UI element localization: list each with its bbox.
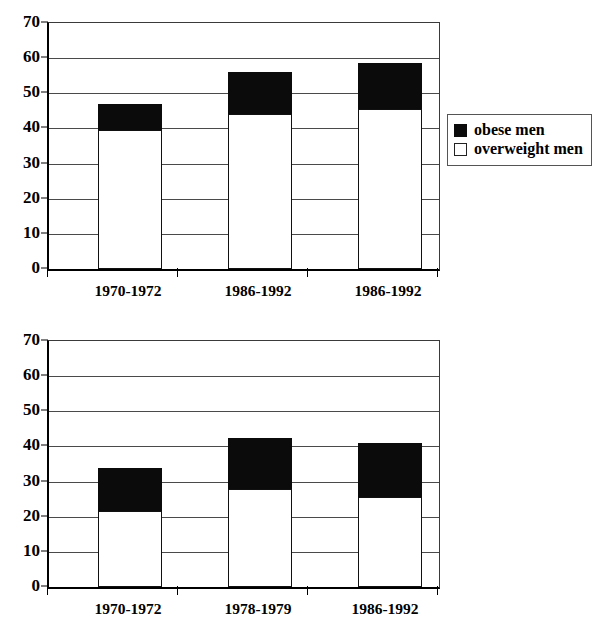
y-tick-label: 30 — [23, 471, 40, 491]
legend-item-obese-men: obese men — [454, 121, 583, 139]
x-tick-mark — [177, 586, 178, 595]
x-tick-mark — [307, 268, 308, 277]
y-tick-label: 50 — [23, 82, 40, 102]
plot-area-men — [47, 22, 440, 271]
y-tick-label: 50 — [23, 400, 40, 420]
bar-segment-obese — [358, 63, 422, 109]
legend-men: obese men overweight men — [447, 114, 592, 166]
x-tick-mark — [437, 586, 438, 595]
y-tick-label: 20 — [23, 188, 40, 208]
legend-swatch-obese-icon — [454, 124, 467, 137]
bar-segment-obese — [228, 438, 292, 489]
legend-swatch-overweight-icon — [454, 143, 467, 156]
x-tick-mark — [307, 586, 308, 595]
y-tick-label: 60 — [23, 47, 40, 67]
bar-segment-overweight — [98, 130, 162, 269]
bar-segment-obese — [98, 468, 162, 512]
bar-segment-overweight — [228, 114, 292, 269]
bar-segment-overweight — [228, 489, 292, 587]
x-axis-labels-men: 1970-1972 1986-1992 1986-1992 — [47, 282, 437, 306]
bar-segment-overweight — [358, 497, 422, 587]
y-tick-label: 30 — [23, 153, 40, 173]
y-tick-label: 0 — [32, 576, 41, 596]
gridline — [49, 411, 439, 412]
y-tick-label: 60 — [23, 365, 40, 385]
x-tick-label: 1970-1972 — [94, 600, 161, 618]
x-tick-mark — [437, 268, 438, 277]
y-axis-labels-women: 70 60 50 40 30 20 10 0 — [0, 340, 40, 586]
y-tick-label: 20 — [23, 506, 40, 526]
y-tick-label: 10 — [23, 223, 40, 243]
x-tick-mark — [47, 586, 48, 595]
legend-label-obese: obese men — [474, 121, 545, 139]
y-axis-labels-men: 70 60 50 40 30 20 10 0 — [0, 22, 40, 268]
y-tick-label: 10 — [23, 541, 40, 561]
y-tick-label: 40 — [23, 435, 40, 455]
y-tick-label: 40 — [23, 117, 40, 137]
legend-item-overweight-men: overweight men — [454, 140, 583, 158]
gridline — [49, 376, 439, 377]
x-tick-label: 1978-1979 — [224, 600, 291, 618]
bar-segment-obese — [98, 104, 162, 130]
y-tick-label: 0 — [32, 258, 41, 278]
plot-area-women — [47, 340, 440, 589]
legend-label-overweight: overweight men — [474, 140, 583, 158]
x-tick-label: 1970-1972 — [94, 282, 161, 300]
y-tick-label: 70 — [23, 330, 40, 350]
chart-women: 70 60 50 40 30 20 10 0 — [0, 318, 602, 636]
x-tick-mark — [47, 268, 48, 277]
x-tick-label: 1986-1992 — [354, 282, 421, 300]
y-tick-label: 70 — [23, 12, 40, 32]
bar-segment-obese — [358, 443, 422, 497]
x-tick-label: 1986-1992 — [351, 600, 418, 618]
x-tick-mark — [177, 268, 178, 277]
bar-segment-overweight — [98, 511, 162, 587]
bar-segment-obese — [228, 72, 292, 114]
x-axis-labels-women: 1970-1972 1978-1979 1986-1992 — [47, 600, 437, 624]
bar-segment-overweight — [358, 109, 422, 269]
chart-men: 70 60 50 40 30 20 10 0 — [0, 0, 602, 318]
x-tick-label: 1986-1992 — [224, 282, 291, 300]
gridline — [49, 58, 439, 59]
